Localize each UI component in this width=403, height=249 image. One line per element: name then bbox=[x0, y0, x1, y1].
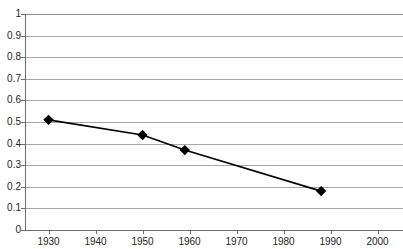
y-axis-tick-mark bbox=[21, 79, 25, 80]
x-axis-tick-mark bbox=[49, 230, 50, 234]
y-axis-tick-mark bbox=[21, 230, 25, 231]
x-axis-tick-label: 1960 bbox=[168, 236, 212, 247]
x-axis-tick-label: 1940 bbox=[74, 236, 118, 247]
y-axis-tick-mark bbox=[21, 122, 25, 123]
data-series bbox=[0, 0, 403, 249]
data-point-marker bbox=[316, 186, 326, 196]
x-axis-tick-mark bbox=[237, 230, 238, 234]
x-axis-tick-label: 1950 bbox=[121, 236, 165, 247]
x-axis-tick-mark bbox=[378, 230, 379, 234]
x-axis-tick-mark bbox=[96, 230, 97, 234]
y-axis-tick-mark bbox=[21, 100, 25, 101]
series-line bbox=[49, 120, 322, 191]
y-axis-tick-mark bbox=[21, 57, 25, 58]
x-axis-tick-label: 2000 bbox=[356, 236, 400, 247]
x-axis-tick-mark bbox=[284, 230, 285, 234]
data-point-marker bbox=[43, 115, 53, 125]
y-axis-tick-mark bbox=[21, 36, 25, 37]
x-axis-tick-label: 1980 bbox=[262, 236, 306, 247]
data-point-marker bbox=[180, 145, 190, 155]
x-axis-tick-label: 1990 bbox=[309, 236, 353, 247]
x-axis-tick-label: 1930 bbox=[27, 236, 71, 247]
y-axis-tick-mark bbox=[21, 144, 25, 145]
y-axis-tick-mark bbox=[21, 187, 25, 188]
series-markers bbox=[43, 115, 326, 197]
x-axis-tick-mark bbox=[331, 230, 332, 234]
data-point-marker bbox=[137, 130, 147, 140]
x-axis-tick-mark bbox=[143, 230, 144, 234]
x-axis-tick-mark bbox=[190, 230, 191, 234]
y-axis-tick-mark bbox=[21, 208, 25, 209]
x-axis-tick-label: 1970 bbox=[215, 236, 259, 247]
chart-container: 10.90.80.70.60.50.40.30.20.10 1930194019… bbox=[0, 0, 403, 249]
y-axis-tick-mark bbox=[21, 165, 25, 166]
y-axis-tick-mark bbox=[21, 14, 25, 15]
